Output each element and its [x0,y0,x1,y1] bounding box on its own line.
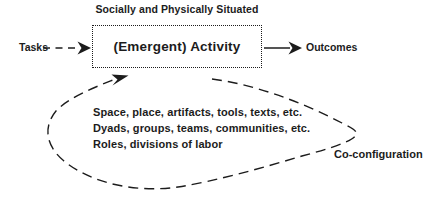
loop-line-roles: Roles, divisions of labor [93,136,310,152]
coconfiguration-label: Co-configuration [334,148,423,160]
loop-text-block: Space, place, artifacts, tools, texts, e… [93,104,310,152]
outcomes-arrowhead-icon [289,42,303,55]
loop-line-space: Space, place, artifacts, tools, texts, e… [93,104,310,120]
tasks-label: Tasks [19,41,48,53]
situated-caption: Socially and Physically Situated [92,3,262,15]
loop-arrowhead-icon [112,75,129,86]
outcomes-label: Outcomes [306,41,357,53]
activity-box: (Emergent) Activity [92,25,262,68]
loop-line-dyads: Dyads, groups, teams, communities, etc. [93,120,310,136]
activity-label: (Emergent) Activity [113,39,240,54]
activity-diagram: Socially and Physically Situated (Emerge… [0,0,430,199]
tasks-arrowhead-icon [78,42,92,55]
